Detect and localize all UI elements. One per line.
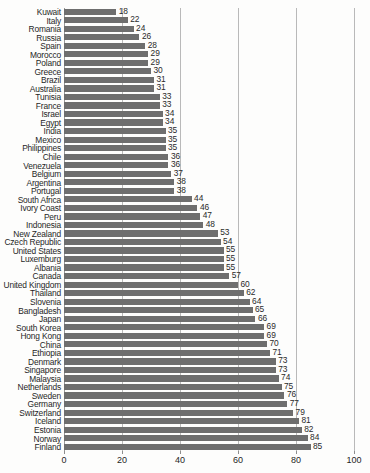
bar-row: 75 — [64, 383, 354, 391]
bar — [64, 256, 224, 262]
axis-tick-label-20: 20 — [117, 455, 127, 465]
axis-tick-label-100: 100 — [346, 455, 361, 465]
bar — [64, 222, 203, 228]
bar-row: 38 — [64, 179, 354, 187]
axis-tick-label-80: 80 — [291, 455, 301, 465]
bar — [64, 34, 139, 40]
bar — [64, 392, 284, 398]
bar — [64, 307, 253, 313]
bar — [64, 350, 270, 356]
bar-row: 76 — [64, 392, 354, 400]
axis-tick-60 — [238, 451, 239, 454]
bar-row: 65 — [64, 307, 354, 315]
bar — [64, 60, 148, 66]
bar-row: 36 — [64, 153, 354, 161]
bar-value-label: 18 — [119, 7, 128, 16]
bar-rows: 1822242628292930313133333434353535363637… — [64, 8, 354, 451]
axis-tick-80 — [296, 451, 297, 454]
bar — [64, 273, 229, 279]
bar-row: 33 — [64, 102, 354, 110]
bar — [64, 333, 264, 339]
axis-tick-20 — [122, 451, 123, 454]
bar — [64, 26, 134, 32]
bar-row: 33 — [64, 93, 354, 101]
bar-row: 35 — [64, 127, 354, 135]
bar-row: 69 — [64, 324, 354, 332]
bar-row: 55 — [64, 264, 354, 272]
bar-row: 55 — [64, 247, 354, 255]
bar — [64, 205, 197, 211]
bar-row: 85 — [64, 443, 354, 451]
bar-row: 64 — [64, 298, 354, 306]
bar-row: 38 — [64, 187, 354, 195]
axis-tick-100 — [354, 451, 355, 454]
bar-row: 35 — [64, 136, 354, 144]
plot-area: 1822242628292930313133333434353535363637… — [64, 8, 354, 451]
bar — [64, 77, 154, 83]
bar — [64, 119, 163, 125]
bar — [64, 111, 163, 117]
axis-tick-label-40: 40 — [175, 455, 185, 465]
bar-row: 31 — [64, 85, 354, 93]
bar-value-label: 48 — [206, 220, 215, 229]
bar — [64, 410, 293, 416]
bar-value-label: 85 — [313, 442, 322, 451]
bar — [64, 299, 250, 305]
bar-row: 66 — [64, 315, 354, 323]
bar-row: 73 — [64, 366, 354, 374]
bar — [64, 264, 224, 270]
bar — [64, 435, 308, 441]
bar-row: 26 — [64, 34, 354, 42]
bar — [64, 213, 200, 219]
bar — [64, 196, 192, 202]
bar-row: 35 — [64, 144, 354, 152]
bar-row: 62 — [64, 289, 354, 297]
bar — [64, 102, 160, 108]
bar-row: 34 — [64, 110, 354, 118]
bar-row: 84 — [64, 435, 354, 443]
bar — [64, 316, 255, 322]
bar-row: 69 — [64, 332, 354, 340]
bar — [64, 9, 116, 15]
bar — [64, 282, 238, 288]
bar-row: 73 — [64, 358, 354, 366]
bar — [64, 85, 154, 91]
bar-row: 37 — [64, 170, 354, 178]
bar — [64, 418, 299, 424]
bar — [64, 358, 276, 364]
bar-row: 70 — [64, 341, 354, 349]
bar-row: 48 — [64, 221, 354, 229]
bar-row: 31 — [64, 76, 354, 84]
bar — [64, 43, 145, 49]
bar — [64, 162, 168, 168]
bar-row: 28 — [64, 42, 354, 50]
bar-value-label: 38 — [177, 186, 186, 195]
bar-row: 57 — [64, 272, 354, 280]
bar-row: 77 — [64, 400, 354, 408]
axis-tick-label-0: 0 — [61, 455, 66, 465]
bar — [64, 128, 166, 134]
bar-row: 36 — [64, 162, 354, 170]
bar-row: 30 — [64, 68, 354, 76]
bar — [64, 427, 302, 433]
bar — [64, 17, 128, 23]
value-axis: 020406080100 — [64, 451, 354, 471]
bar — [64, 367, 276, 373]
bar — [64, 179, 174, 185]
category-axis-labels: KuwaitItalyRomaniaRussiaSpainMoroccoPola… — [0, 8, 61, 451]
bar — [64, 188, 174, 194]
bar-row: 22 — [64, 17, 354, 25]
bar — [64, 239, 221, 245]
bar-row: 55 — [64, 255, 354, 263]
bar — [64, 341, 267, 347]
bar-row: 29 — [64, 59, 354, 67]
bar — [64, 384, 282, 390]
bar-row: 34 — [64, 119, 354, 127]
bar-row: 71 — [64, 349, 354, 357]
gridline-100 — [354, 8, 355, 451]
bar-row: 60 — [64, 281, 354, 289]
bar — [64, 137, 166, 143]
bar — [64, 444, 311, 450]
bar — [64, 51, 148, 57]
bar — [64, 230, 218, 236]
